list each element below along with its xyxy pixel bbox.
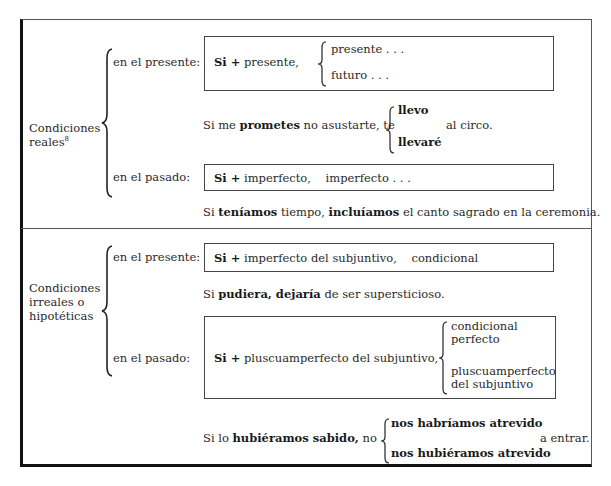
option-hubieramos: nos hubiéramos atrevido (391, 446, 551, 460)
option-line: del subjuntivo (451, 378, 556, 391)
formula-box-real-present: Si + presente, presente . . . futuro . .… (204, 36, 554, 91)
text: no asustarte, te (304, 118, 395, 132)
bold-verb: hubiéramos sabido, (232, 431, 358, 445)
formula-text: Si + presente, (214, 55, 299, 69)
option-conditional-perfect: condicional perfecto (451, 320, 518, 346)
option-pluperfect-subjunctive: pluscuamperfecto del subjuntivo (451, 365, 556, 391)
label-past: en el pasado: (113, 170, 190, 184)
text: Si (203, 287, 215, 301)
option-line: perfecto (451, 333, 518, 346)
si-plus: Si + (214, 251, 240, 265)
formula-box-unreal-past: Si + pluscuamperfecto del subjuntivo, co… (204, 316, 556, 399)
category-text: reales (29, 135, 65, 149)
category-line: irreales o (29, 295, 100, 309)
example-sentence: Si me prometes no asustarte, te (203, 118, 395, 132)
example-sentence: Si pudiera, dejaría de ser supersticioso… (203, 287, 445, 301)
label-past: en el pasado: (113, 351, 190, 365)
example-ending: al circo. (446, 118, 493, 132)
formula-text: Si + pluscuamperfecto del subjuntivo, (214, 351, 438, 365)
bold-verb: incluíamos (329, 205, 400, 219)
brace-icon (385, 106, 395, 154)
big-brace-icon (100, 48, 114, 198)
brace-icon (380, 418, 390, 464)
bold-verb: pudiera, dejaría (218, 287, 321, 301)
brace-icon (438, 321, 448, 395)
formula-rest: pluscuamperfecto del subjuntivo, (244, 351, 438, 365)
text: Si me (203, 118, 236, 132)
option-present: presente . . . (331, 42, 404, 56)
category-line: hipotéticas (29, 309, 100, 323)
option-habriamos: nos habríamos atrevido (391, 416, 542, 430)
category-label-real: Condiciones reales8 (29, 121, 100, 149)
formula-box-real-past: Si + imperfecto, imperfecto . . . (204, 164, 554, 191)
formula-rest: imperfecto, imperfecto . . . (244, 171, 411, 185)
brace-icon (317, 41, 327, 87)
category-line: reales8 (29, 135, 100, 149)
category-line: Condiciones (29, 121, 100, 135)
option-llevo: llevo (398, 103, 428, 117)
text: no (362, 431, 376, 445)
text: Si lo (203, 431, 229, 445)
category-label-unreal: Condiciones irreales o hipotéticas (29, 281, 100, 323)
text: tiempo, (281, 205, 325, 219)
example-ending: a entrar. (540, 431, 590, 445)
formula-text: Si + imperfecto del subjuntivo, condicio… (214, 251, 478, 265)
option-llevare: llevaré (398, 135, 442, 149)
formula-text: Si + imperfecto, imperfecto . . . (214, 171, 411, 185)
example-sentence: Si lo hubiéramos sabido, no (203, 431, 377, 445)
si-plus: Si + (214, 55, 240, 69)
section-divider (21, 228, 592, 229)
formula-rest: presente, (244, 55, 299, 69)
label-present: en el presente: (113, 250, 200, 264)
option-future: futuro . . . (331, 68, 389, 82)
si-plus: Si + (214, 351, 240, 365)
text: de ser supersticioso. (324, 287, 444, 301)
example-sentence: Si teníamos tiempo, incluíamos el canto … (203, 205, 600, 219)
formula-rest: imperfecto del subjuntivo, condicional (244, 251, 478, 265)
text: Si (203, 205, 215, 219)
big-brace-icon (100, 245, 114, 377)
footnote-marker: 8 (65, 135, 69, 143)
category-line: Condiciones (29, 281, 100, 295)
label-present: en el presente: (113, 55, 200, 69)
si-plus: Si + (214, 171, 240, 185)
bold-verb: prometes (240, 118, 300, 132)
bold-verb: teníamos (218, 205, 277, 219)
formula-box-unreal-present: Si + imperfecto del subjuntivo, condicio… (204, 243, 554, 272)
text: el canto sagrado en la ceremonia. (403, 205, 601, 219)
